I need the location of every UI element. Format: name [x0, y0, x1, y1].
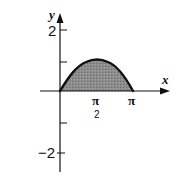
y-tick-label-2: 2: [48, 22, 56, 39]
x-axis-label: x: [161, 72, 169, 87]
x-axis-arrow-icon: [160, 88, 170, 95]
x-tick-label-pi-half-den: 2: [94, 109, 100, 120]
sine-area-chart: y 2 x π 2 π −2: [0, 0, 180, 179]
x-tick-label-pi: π: [128, 93, 135, 108]
y-axis-arrow-icon: [57, 13, 64, 23]
y-tick-label-neg2: −2: [38, 144, 55, 161]
x-tick-label-pi-half-num: π: [92, 93, 99, 108]
y-axis-label: y: [47, 7, 55, 22]
